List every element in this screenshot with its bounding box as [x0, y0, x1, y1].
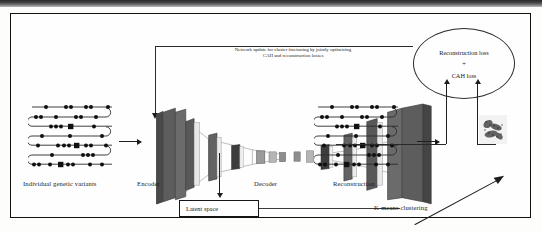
feedback-caption: Network update for cluster finetuning by…	[183, 47, 403, 60]
feedback-line-vertical	[155, 46, 156, 115]
label-input: Individual genetic variants	[23, 180, 97, 187]
figure-frame: Network update for cluster finetuning by…	[10, 13, 531, 218]
arrow-reconstruction-to-loss	[446, 84, 447, 144]
loss-plus-sign: +	[462, 60, 466, 67]
feedback-arrowhead-icon	[152, 113, 158, 119]
input-genome-graphic	[28, 102, 116, 174]
label-reconstruction: Reconstruction	[333, 180, 375, 187]
arrow-input-to-encoder	[119, 141, 141, 142]
scan-edge-strip	[0, 0, 542, 7]
reconstruction-loss-feed-line	[336, 144, 446, 145]
arrow-encoder-to-latent	[219, 153, 220, 193]
label-kmeans-clustering: K-means clustering	[374, 204, 428, 211]
loss-reconstruction-label: Reconstruction loss	[439, 49, 489, 56]
feedback-caption-line2: CAH and reconstruction losses	[183, 53, 403, 59]
clustering-loss-feed-line	[477, 144, 496, 145]
cluster-scatter-thumbnail	[479, 115, 507, 144]
loss-node: Reconstruction loss + CAH loss	[413, 28, 515, 99]
label-encoder: Encoder	[137, 180, 160, 187]
latent-space-label: Latent space	[186, 205, 218, 212]
reconstruction-genome-graphic	[314, 102, 402, 174]
latent-space-box[interactable]: Latent space	[179, 200, 259, 217]
arrow-clustering-to-loss	[477, 84, 478, 144]
label-decoder: Decoder	[254, 180, 277, 187]
arrow-decoder-to-reconstruction	[417, 141, 439, 142]
loss-cah-label: CAH loss	[452, 72, 477, 79]
